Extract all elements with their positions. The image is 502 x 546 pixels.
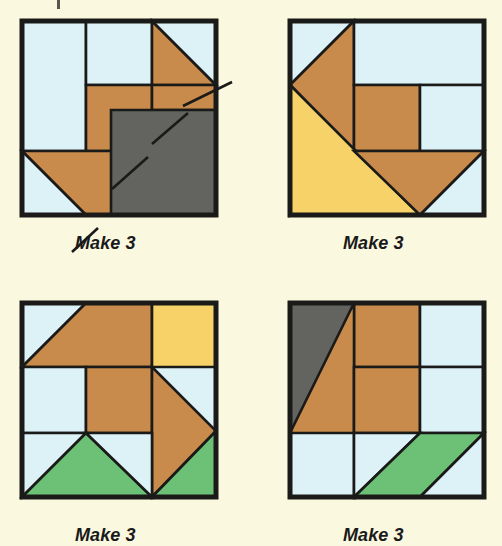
patch-left-background-square (22, 367, 86, 433)
patch-right-background-rect (420, 85, 484, 151)
quilt-block-1 (22, 21, 216, 215)
patch-left-background-rect (22, 21, 86, 151)
quilt-block-diagram (290, 21, 484, 215)
patch-top-right-yellow-triangle (152, 303, 216, 367)
quilt-block-diagram (22, 21, 216, 215)
patch-center-orange-square (354, 367, 420, 433)
quilt-block-diagram (290, 303, 484, 497)
diagram-page: Make 3Make 3Make 3Make 3 (0, 0, 502, 546)
quilt-block-3 (22, 303, 216, 497)
patch-top-center-background-rect (86, 21, 152, 85)
block-caption-4: Make 3 (343, 525, 404, 546)
partial-crop-mark (57, 0, 60, 9)
block-caption-3: Make 3 (75, 525, 136, 546)
patch-center-orange-square (354, 85, 420, 151)
patch-top-orange-roof-triangle (354, 303, 420, 367)
patch-right-background-square (420, 367, 484, 433)
quilt-block-2 (290, 21, 484, 215)
patch-right-orange-strip (152, 85, 216, 110)
patch-bottom-left-background-triangle (290, 433, 354, 497)
patch-top-right-background-rect (354, 21, 484, 85)
quilt-block-4 (290, 303, 484, 497)
block-caption-2: Make 3 (343, 233, 404, 254)
patch-top-right-background-triangle (420, 303, 484, 367)
block-caption-1: Make 3 (75, 233, 136, 254)
patch-gray-square-overlay (111, 110, 216, 215)
quilt-block-diagram (22, 303, 216, 497)
patch-center-orange-square (86, 367, 152, 433)
